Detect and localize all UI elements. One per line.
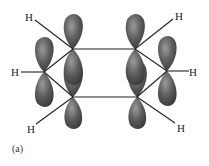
hydrogen-label-right: H — [189, 66, 197, 78]
ring-bonds — [44, 49, 167, 97]
hydrogen-label-bottom-left: H — [27, 123, 35, 135]
hydrogen-label-bottom-right: H — [177, 122, 185, 134]
figure-caption: (a) — [12, 143, 23, 155]
hydrogen-label-left: H — [11, 66, 19, 78]
ch-bonds — [21, 19, 189, 124]
benzene-orbital-diagram: H H H H H H (a) — [0, 0, 209, 166]
hydrogen-label-top-left: H — [25, 11, 33, 23]
hydrogen-label-top-right: H — [175, 10, 183, 22]
